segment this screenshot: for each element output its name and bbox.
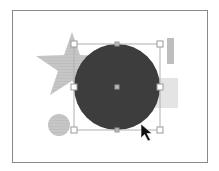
resize-handle-bottom-right[interactable] bbox=[157, 127, 163, 133]
resize-handle-middle-right[interactable] bbox=[157, 84, 163, 90]
tall-rectangle-shape[interactable] bbox=[167, 38, 174, 64]
resize-handle-bottom-left[interactable] bbox=[71, 127, 77, 133]
resize-handle-middle-left[interactable] bbox=[71, 84, 77, 90]
arrow-cursor-icon bbox=[141, 124, 152, 141]
resize-handle-bottom-center[interactable] bbox=[115, 128, 119, 132]
center-point-handle[interactable] bbox=[115, 85, 119, 89]
resize-handle-top-left[interactable] bbox=[71, 41, 77, 47]
resize-handle-top-right[interactable] bbox=[157, 41, 163, 47]
small-circle-shape[interactable] bbox=[48, 114, 70, 136]
canvas-scene[interactable] bbox=[0, 0, 219, 171]
resize-handle-top-center[interactable] bbox=[115, 42, 119, 46]
